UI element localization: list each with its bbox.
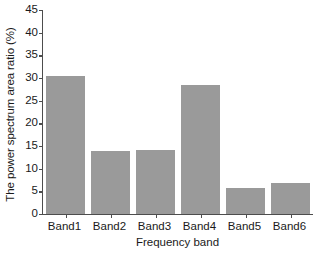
bar: [181, 85, 219, 214]
y-axis-tick-label: 25: [18, 95, 38, 107]
y-axis-tick-label: 20: [18, 118, 38, 130]
x-axis-title: Frequency band: [42, 236, 313, 248]
y-axis-tick-label-group: 051015202530354045: [18, 0, 38, 257]
x-axis-tick-label: Band1: [48, 218, 81, 234]
y-axis-tick-label: 15: [18, 140, 38, 152]
bar: [271, 183, 309, 214]
y-axis-tick-mark: [39, 55, 43, 56]
y-axis-tick-label: 30: [18, 72, 38, 84]
x-axis-tick-label: Band2: [93, 218, 126, 234]
plot-area: [42, 10, 313, 215]
y-axis-tick-label: 35: [18, 50, 38, 62]
bar: [46, 76, 84, 214]
x-axis-tick-label: Band4: [183, 218, 216, 234]
y-axis-tick-label: 0: [18, 208, 38, 220]
x-axis-tick-label: Band5: [228, 218, 261, 234]
y-axis-tick-mark: [39, 214, 43, 215]
y-axis-tick-mark: [39, 33, 43, 34]
bar: [136, 150, 174, 214]
bar: [226, 188, 264, 214]
y-axis-tick-label: 5: [18, 186, 38, 198]
y-axis-tick-mark: [39, 169, 43, 170]
y-axis-tick-label: 10: [18, 163, 38, 175]
y-axis-tick-mark: [39, 191, 43, 192]
y-axis-tick-mark: [39, 101, 43, 102]
y-axis-title: The power spectrum area ratio (%): [2, 7, 18, 222]
x-axis-tick-label: Band3: [138, 218, 171, 234]
bar-chart-figure: The power spectrum area ratio (%) 051015…: [0, 0, 325, 257]
y-axis-tick-mark: [39, 78, 43, 79]
y-axis-tick-label: 45: [18, 4, 38, 16]
y-axis-tick-mark: [39, 10, 43, 11]
bar: [91, 151, 129, 214]
y-axis-tick-mark: [39, 123, 43, 124]
x-axis-tick-label-group: Band1Band2Band3Band4Band5Band6: [42, 218, 313, 234]
y-axis-tick-label: 40: [18, 27, 38, 39]
y-axis-tick-mark: [39, 146, 43, 147]
x-axis-tick-label: Band6: [273, 218, 306, 234]
